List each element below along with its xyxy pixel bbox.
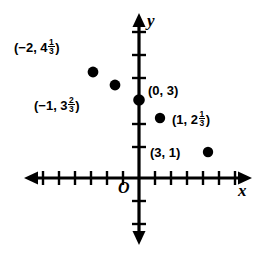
point-label-p4-prefix: (1, 2 [172,113,198,126]
point-label-p2: (−1, 323) [34,96,80,114]
point-label-p5-prefix: (3, 1) [150,146,180,159]
point-label-p4: (1, 213) [172,110,210,128]
coordinate-plane-figure: (−2, 413) (−1, 323) (0, 3) (1, 213) (3, … [0,0,268,254]
point-label-p3: (0, 3) [148,84,178,97]
point-label-p5: (3, 1) [150,146,180,159]
point-label-p4-fraction: 13 [199,110,206,128]
point-label-p2-denominator: 3 [68,104,75,114]
point-label-p2-numerator: 2 [68,96,75,105]
point-label-p1-prefix: (−2, 4 [14,41,48,54]
point-label-p2-fraction: 23 [68,96,75,114]
point-label-p4-numerator: 1 [199,110,206,119]
point-label-p2-suffix: ) [75,99,79,112]
point-label-p4-denominator: 3 [199,118,206,128]
point-label-p1: (−2, 413) [14,38,60,56]
point-label-p3-prefix: (0, 3) [148,84,178,97]
data-point-p3 [133,94,145,106]
point-label-p1-numerator: 1 [48,38,55,47]
y-axis-down-arrowhead [133,231,146,245]
x-axis-label: x [238,182,247,199]
y-axis-label: y [147,12,155,29]
point-label-p1-fraction: 13 [48,38,55,56]
data-point-p2 [110,80,121,91]
data-point-p1 [88,67,99,78]
point-label-p1-denominator: 3 [48,46,55,56]
point-label-p4-suffix: ) [206,113,210,126]
y-axis-up-arrowhead [133,13,146,27]
point-label-p2-prefix: (−1, 3 [34,99,68,112]
point-label-p1-suffix: ) [55,41,59,54]
origin-label: O [118,180,130,196]
x-axis-left-arrowhead [24,172,38,185]
data-point-p4 [155,113,165,123]
data-point-p5 [203,147,213,157]
